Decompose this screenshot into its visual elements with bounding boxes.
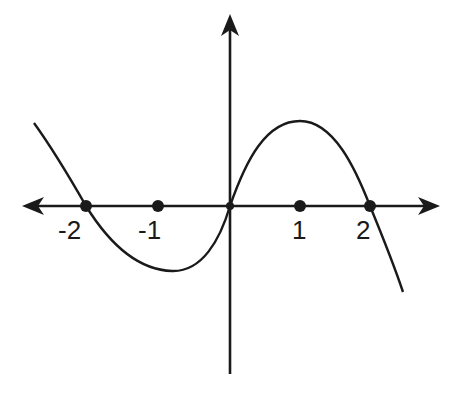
point-origin — [226, 202, 234, 210]
point-pos1 — [294, 200, 306, 212]
tick-label-neg2: -2 — [58, 215, 81, 245]
tick-label-pos1: 1 — [292, 215, 306, 245]
tick-label-pos2: 2 — [356, 215, 370, 245]
point-pos2 — [364, 200, 376, 212]
tick-label-neg1: -1 — [138, 215, 161, 245]
cubic-graph: -2 -1 1 2 — [0, 0, 450, 394]
point-neg1 — [152, 200, 164, 212]
point-neg2 — [80, 200, 92, 212]
